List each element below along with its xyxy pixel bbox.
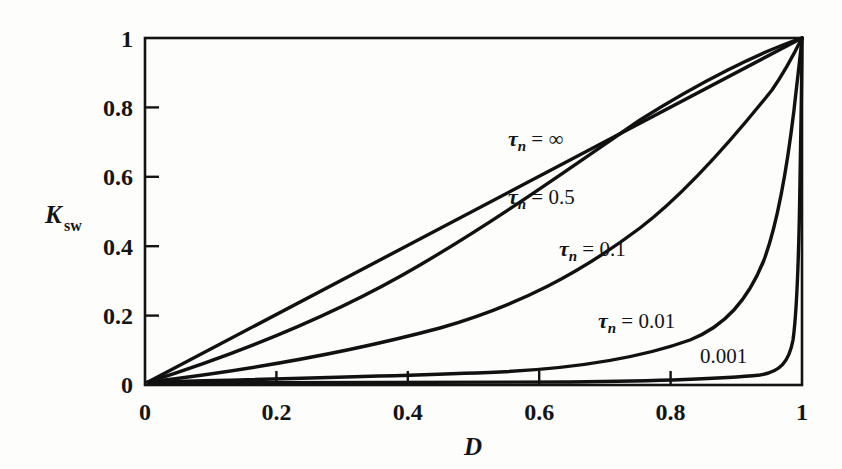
annotation-value-05: 0.5 (548, 185, 574, 209)
annotation-eq-inf: = (526, 127, 548, 151)
curve-group (148, 38, 802, 383)
x-ticklabel-0.4: 0.4 (393, 399, 423, 425)
y-ticklabel-0.2: 0.2 (103, 303, 133, 329)
curve-tau-inf (148, 38, 802, 382)
annotation-tau-sub-001: n (608, 320, 616, 336)
svg-text:τn = 0.01: τn = 0.01 (598, 308, 675, 336)
y-ticklabel-0.4: 0.4 (103, 234, 133, 260)
annotation-eq-01: = (577, 237, 599, 261)
y-ticklabel-0: 0 (121, 372, 133, 398)
y-ticklabel-0.6: 0.6 (103, 164, 133, 190)
annotation-eq-001: = (616, 309, 638, 333)
annotation-tau-inf: τn = ∞ (508, 126, 563, 154)
y-ticklabel-1: 1 (121, 26, 133, 52)
plot-svg: 1 0.8 0.6 0.4 0.2 0 0 0.2 0.4 0.6 0.8 1 … (0, 0, 842, 469)
y-ticklabel-0.8: 0.8 (103, 95, 133, 121)
x-ticklabel-0.8: 0.8 (656, 399, 686, 425)
x-ticklabel-0.2: 0.2 (261, 399, 291, 425)
annotation-tau-sub-01: n (569, 248, 577, 264)
annotation-value-0001: 0.001 (700, 344, 747, 368)
annotation-tau-sub-05: n (518, 196, 526, 212)
y-axis-title: K sw (44, 201, 82, 234)
annotation-tau-0.01: τn = 0.01 (598, 308, 675, 336)
annotation-eq-05: = (526, 185, 548, 209)
annotation-value-001: 0.01 (638, 309, 675, 333)
figure-panel: 1 0.8 0.6 0.4 0.2 0 0 0.2 0.4 0.6 0.8 1 … (0, 0, 842, 469)
annotation-tau-0.1: τn = 0.1 (559, 236, 626, 264)
annotation-tau-0.001: 0.001 (700, 344, 747, 368)
svg-text:τn = ∞: τn = ∞ (508, 126, 563, 154)
x-ticklabel-1: 1 (796, 399, 808, 425)
y-tick-marks (145, 107, 159, 315)
y-axis-title-sub: sw (64, 217, 82, 234)
x-axis-title: D (463, 433, 482, 460)
annotation-value-inf: ∞ (548, 127, 563, 151)
y-axis-title-main: K (44, 201, 64, 228)
annotation-value-01: 0.1 (599, 237, 625, 261)
x-ticklabel-0.6: 0.6 (524, 399, 554, 425)
svg-text:τn = 0.1: τn = 0.1 (559, 236, 626, 264)
annotation-tau-sub-inf: n (518, 138, 526, 154)
x-ticklabel-0: 0 (139, 399, 151, 425)
